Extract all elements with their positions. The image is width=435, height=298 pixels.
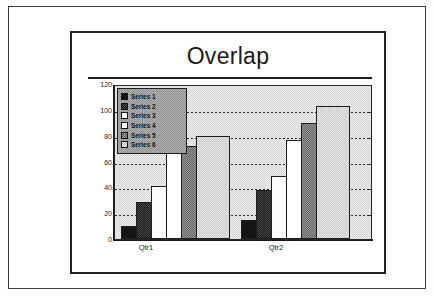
slide-frame: Overlap 120100806040200 Series 1Series 2… (70, 31, 386, 274)
legend-swatch-icon (121, 112, 128, 119)
legend-swatch-icon (121, 103, 128, 110)
chart-legend: Series 1Series 2Series 3Series 4Series 5… (117, 88, 187, 154)
y-tick-mark (367, 189, 371, 190)
y-tick-mark (367, 164, 371, 165)
legend-item-series-6: Series 6 (121, 140, 184, 150)
y-tick-mark (367, 215, 371, 216)
legend-swatch-icon (121, 122, 128, 129)
legend-swatch-icon (121, 93, 128, 100)
legend-item-label: Series 1 (131, 93, 156, 100)
y-tick-label: 120 (86, 81, 112, 89)
legend-item-label: Series 5 (131, 132, 156, 139)
slide-page: Overlap 120100806040200 Series 1Series 2… (0, 0, 435, 298)
legend-item-series-1: Series 1 (121, 92, 184, 102)
bar-qtr2-series-6 (316, 106, 350, 239)
legend-item-label: Series 3 (131, 112, 156, 119)
y-tick-mark (367, 112, 371, 113)
x-axis-label-qtr2: Qtr2 (246, 243, 306, 252)
y-axis: 120100806040200 (86, 85, 112, 240)
legend-item-series-3: Series 3 (121, 111, 184, 121)
y-tick-label: 40 (86, 184, 112, 192)
y-tick-label: 0 (86, 236, 112, 244)
bar-qtr1-series-6 (196, 136, 230, 239)
x-axis-label-qtr1: Qtr1 (116, 243, 176, 252)
legend-swatch-icon (121, 132, 128, 139)
y-tick-mark (367, 138, 371, 139)
legend-swatch-icon (121, 141, 128, 148)
page-title: Overlap (72, 43, 384, 70)
y-tick-label: 20 (86, 210, 112, 218)
page-border: Overlap 120100806040200 Series 1Series 2… (8, 6, 426, 289)
bar-chart: 120100806040200 Series 1Series 2Series 3… (86, 85, 374, 265)
y-tick-label: 80 (86, 133, 112, 141)
legend-item-label: Series 6 (131, 141, 156, 148)
y-tick-label: 60 (86, 159, 112, 167)
title-divider (88, 77, 372, 79)
legend-item-series-2: Series 2 (121, 102, 184, 112)
legend-item-label: Series 2 (131, 103, 156, 110)
legend-item-series-5: Series 5 (121, 130, 184, 140)
y-tick-label: 100 (86, 107, 112, 115)
legend-item-series-4: Series 4 (121, 121, 184, 131)
legend-item-label: Series 4 (131, 122, 156, 129)
